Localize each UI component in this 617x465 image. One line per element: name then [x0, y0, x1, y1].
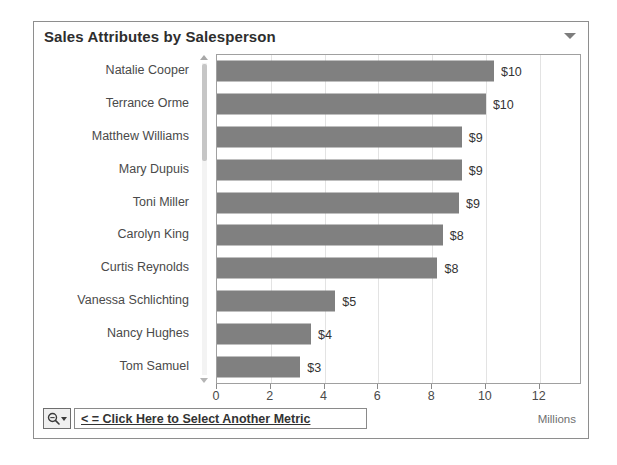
chart-body: Natalie CooperTerrance OrmeMatthew Willi… — [43, 52, 581, 400]
plot-area: $10$10$9$9$9$8$8$5$4$3 — [216, 54, 581, 384]
bar-value-label: $3 — [307, 361, 321, 375]
category-label: Tom Samuel — [43, 359, 189, 373]
bar-value-label: $10 — [501, 65, 522, 79]
bar[interactable] — [217, 61, 494, 82]
page-title: Sales Attributes by Salesperson — [44, 28, 276, 45]
category-label: Mary Dupuis — [43, 162, 189, 176]
category-label: Curtis Reynolds — [43, 260, 189, 274]
category-label: Nancy Hughes — [43, 326, 189, 340]
x-tick-label: 4 — [320, 389, 327, 403]
category-label: Terrance Orme — [43, 96, 189, 110]
category-label: Vanessa Schlichting — [43, 293, 189, 307]
units-label: Millions — [538, 413, 576, 425]
metric-select-label: < = Click Here to Select Another Metric — [81, 412, 310, 426]
bar-value-label: $9 — [469, 131, 483, 145]
metric-picker: < = Click Here to Select Another Metric — [43, 408, 367, 429]
category-label: Toni Miller — [43, 195, 189, 209]
widget-footer: < = Click Here to Select Another Metric … — [34, 404, 588, 438]
category-axis: Natalie CooperTerrance OrmeMatthew Willi… — [43, 52, 193, 384]
bar-value-label: $5 — [342, 295, 356, 309]
bar[interactable] — [217, 225, 443, 246]
caret-down-icon — [61, 417, 67, 421]
x-tick-label: 8 — [428, 389, 435, 403]
scrollbar-thumb[interactable] — [202, 64, 207, 161]
bar-value-label: $9 — [469, 164, 483, 178]
bar-value-label: $10 — [493, 98, 514, 112]
category-label: Carolyn King — [43, 227, 189, 241]
bar[interactable] — [217, 258, 437, 279]
bar[interactable] — [217, 159, 462, 180]
search-metric-icon[interactable] — [43, 408, 71, 429]
x-tick-label: 12 — [532, 389, 546, 403]
x-tick-label: 2 — [266, 389, 273, 403]
x-tick-label: 10 — [478, 389, 492, 403]
bar-value-label: $8 — [444, 262, 458, 276]
bar[interactable] — [217, 323, 311, 344]
sales-attributes-widget: Sales Attributes by Salesperson Natalie … — [33, 21, 589, 439]
scroll-up-arrow-icon[interactable] — [200, 55, 208, 60]
bar-value-label: $8 — [450, 229, 464, 243]
bar-value-label: $4 — [318, 328, 332, 342]
gridline — [540, 55, 541, 383]
bar[interactable] — [217, 356, 300, 377]
bar[interactable] — [217, 192, 459, 213]
category-label: Matthew Williams — [43, 129, 189, 143]
chart-vertical-scrollbar[interactable] — [199, 54, 210, 384]
category-label: Natalie Cooper — [43, 63, 189, 77]
bar[interactable] — [217, 291, 335, 312]
scroll-down-arrow-icon[interactable] — [200, 378, 208, 383]
bar[interactable] — [217, 127, 462, 148]
x-tick-label: 0 — [213, 389, 220, 403]
gridline — [486, 55, 487, 383]
x-tick-label: 6 — [374, 389, 381, 403]
chevron-down-icon[interactable] — [564, 33, 576, 39]
bar[interactable] — [217, 94, 486, 115]
metric-select-box[interactable]: < = Click Here to Select Another Metric — [74, 408, 367, 429]
widget-header: Sales Attributes by Salesperson — [34, 22, 588, 50]
bar-value-label: $9 — [466, 197, 480, 211]
